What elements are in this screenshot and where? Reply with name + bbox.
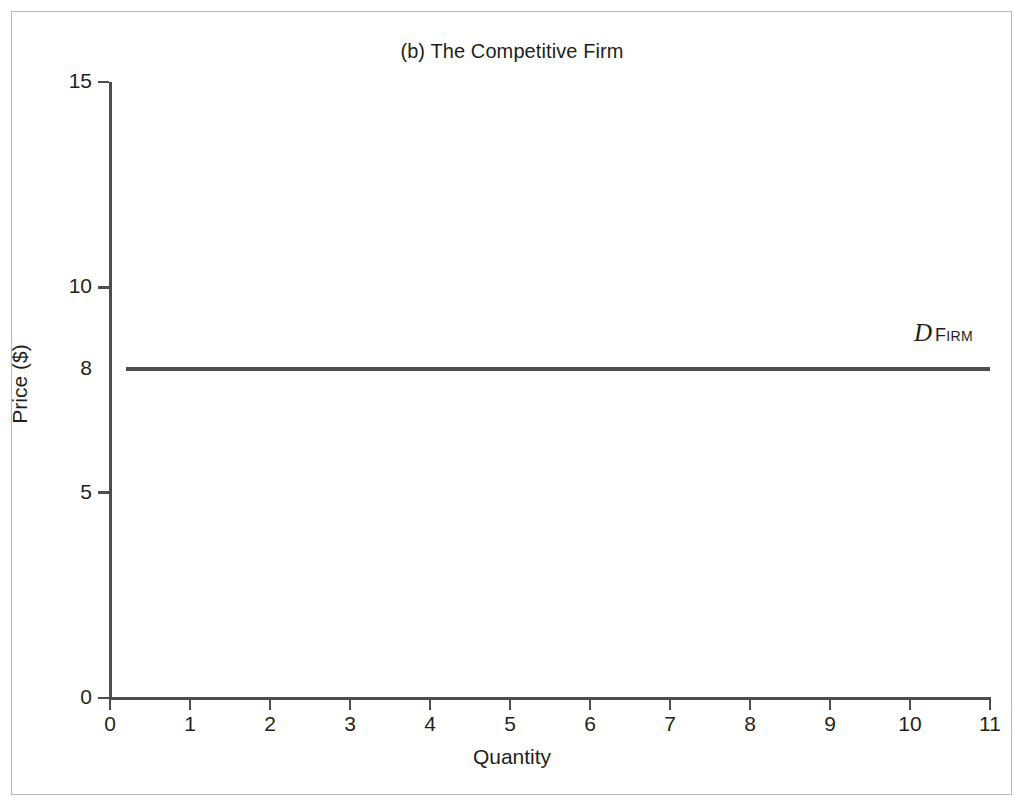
x-tick-mark <box>749 699 752 710</box>
x-tick-mark <box>829 699 832 710</box>
chart-title: (b) The Competitive Firm <box>0 40 1024 63</box>
x-tick-mark <box>589 699 592 710</box>
x-tick-label: 10 <box>880 712 940 736</box>
x-tick-mark <box>269 699 272 710</box>
x-tick-label: 6 <box>560 712 620 736</box>
x-tick-label: 9 <box>800 712 860 736</box>
y-axis-line <box>109 82 112 699</box>
x-tick-mark <box>669 699 672 710</box>
y-extra-label: 8 <box>52 357 92 378</box>
figure-border <box>11 11 1012 795</box>
y-axis-title: Price ($) <box>8 304 32 464</box>
x-tick-label: 8 <box>720 712 780 736</box>
x-tick-mark <box>989 699 992 710</box>
x-tick-label: 1 <box>160 712 220 736</box>
x-tick-label: 7 <box>640 712 700 736</box>
y-tick-label: 10 <box>52 275 92 296</box>
x-tick-label: 4 <box>400 712 460 736</box>
demand-curve-label: DFIRM <box>914 319 973 347</box>
y-tick-label: 15 <box>52 70 92 91</box>
x-tick-mark <box>109 699 112 710</box>
x-tick-mark <box>189 699 192 710</box>
x-axis-line <box>109 697 991 700</box>
y-tick-label: 0 <box>52 686 92 707</box>
x-tick-mark <box>509 699 512 710</box>
y-tick-mark <box>98 81 109 84</box>
figure-container: (b) The Competitive Firm 0510158 0123456… <box>0 0 1024 809</box>
x-tick-label: 0 <box>80 712 140 736</box>
demand-label-subscript: FIRM <box>935 325 973 345</box>
x-tick-mark <box>349 699 352 710</box>
x-tick-label: 5 <box>480 712 540 736</box>
x-tick-mark <box>429 699 432 710</box>
y-tick-mark <box>98 286 109 289</box>
x-tick-mark <box>909 699 912 710</box>
x-tick-label: 3 <box>320 712 380 736</box>
y-tick-mark <box>98 697 109 700</box>
y-tick-mark <box>98 491 109 494</box>
y-tick-label: 5 <box>52 481 92 502</box>
demand-curve-d-firm <box>126 367 990 371</box>
demand-label-letter: D <box>914 319 932 346</box>
x-axis-title: Quantity <box>0 745 1024 769</box>
x-tick-label: 11 <box>960 712 1020 736</box>
x-tick-label: 2 <box>240 712 300 736</box>
